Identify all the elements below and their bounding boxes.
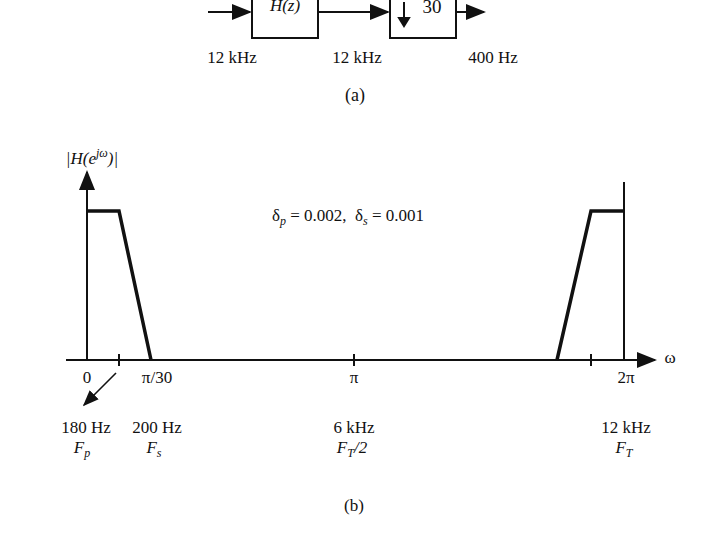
rate-input: 12 kHz bbox=[207, 48, 257, 68]
freq-half-hz: 6 kHz bbox=[333, 418, 374, 438]
freq-ft-symbol: FT bbox=[615, 438, 632, 461]
downsample-factor: 30 bbox=[423, 0, 442, 18]
magnitude-response bbox=[87, 211, 624, 360]
freq-fs-hz: 200 Hz bbox=[132, 418, 182, 438]
freq-fp-hz: 180 Hz bbox=[61, 418, 111, 438]
caption-b: (b) bbox=[344, 496, 364, 516]
caption-a: (a) bbox=[345, 85, 365, 106]
x-axis-label: ω bbox=[664, 348, 675, 368]
freq-half-symbol: FT/2 bbox=[337, 438, 367, 461]
tick-2pi: 2π bbox=[617, 368, 634, 388]
freq-fp-symbol: Fp bbox=[74, 438, 90, 461]
filter-block-label: H(z) bbox=[270, 0, 300, 16]
tick-0: 0 bbox=[83, 368, 92, 388]
rate-output: 400 Hz bbox=[468, 48, 518, 68]
y-axis-label: |H(ejω)| bbox=[66, 146, 118, 169]
freq-ft-hz: 12 kHz bbox=[601, 418, 651, 438]
tick-pi-30: π/30 bbox=[142, 368, 172, 388]
diagram-canvas bbox=[0, 0, 712, 547]
rate-mid: 12 kHz bbox=[332, 48, 382, 68]
tick-pi: π bbox=[350, 368, 359, 388]
block-diagram bbox=[208, 0, 484, 38]
tolerance-spec: δp = 0.002, δs = 0.001 bbox=[272, 206, 424, 229]
plot-axes bbox=[66, 172, 655, 366]
freq-fs-symbol: Fs bbox=[146, 438, 161, 461]
